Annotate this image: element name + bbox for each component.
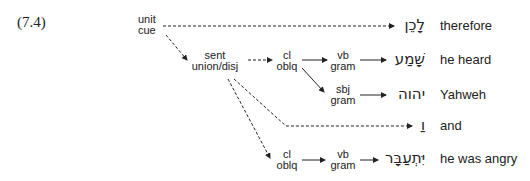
gloss-4: he was angry (440, 151, 517, 166)
node-cl-oblq-2: cl oblq (272, 149, 302, 171)
hebrew-word-4: יִּתְעַבָּר (380, 149, 425, 167)
node-sent-line2: union/disj (185, 61, 245, 72)
node-vb-gram-1: vb gram (327, 50, 359, 72)
gloss-1: he heard (440, 52, 491, 67)
node-cl2-line2: oblq (272, 160, 302, 171)
hebrew-word-0: לָכֵן (385, 16, 425, 34)
node-unit-cue: unit cue (138, 14, 162, 36)
hebrew-word-1: שָׁמַע (385, 50, 425, 68)
edge-cue-to-sent (166, 35, 187, 60)
node-unit-line2: cue (138, 25, 162, 36)
node-cl1-line2: oblq (272, 61, 302, 72)
node-vb1-line2: gram (327, 61, 359, 72)
node-sent-union: sent union/disj (185, 50, 245, 72)
gloss-0: therefore (440, 18, 492, 33)
gloss-2: Yahweh (440, 87, 486, 102)
node-vb2-line2: gram (327, 160, 359, 171)
edge-cl1-to-sbj (302, 68, 324, 92)
edge-sent-to-cl2 (228, 79, 270, 158)
hebrew-word-3: וַ (385, 116, 425, 134)
node-sbj-line2: gram (327, 95, 359, 106)
node-vb-gram-2: vb gram (327, 149, 359, 171)
hebrew-word-2: יהוה (385, 85, 425, 103)
gloss-3: and (440, 118, 462, 133)
node-sbj-gram: sbj gram (327, 84, 359, 106)
node-cl-oblq-1: cl oblq (272, 50, 302, 72)
